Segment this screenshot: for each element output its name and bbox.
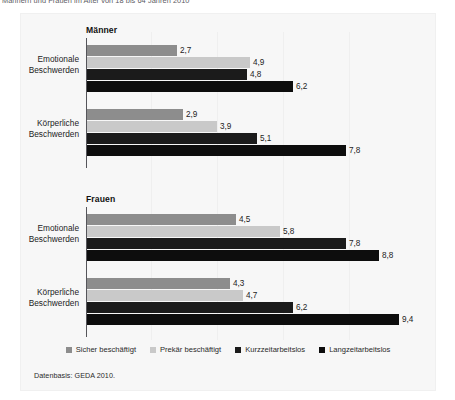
bar-maenner-koerperliche-prekaer <box>87 121 217 132</box>
legend-label-prekaer: Prekär beschäftigt <box>160 345 221 354</box>
group-label-frauen-emotionale: Emotionale Beschwerden <box>0 223 79 244</box>
group-label-frauen-koerperliche: Körperliche Beschwerden <box>0 287 79 308</box>
chart-legend: Sicher beschäftigt Prekär beschäftigt Ku… <box>21 345 435 354</box>
legend-label-langzeit: Langzeitarbeitslos <box>329 345 390 354</box>
legend-label-sicher: Sicher beschäftigt <box>76 345 136 354</box>
bar-frauen-koerperliche-langzeit <box>87 314 399 325</box>
group-label-maenner-koerperliche: Körperliche Beschwerden <box>0 118 79 139</box>
bar-value-frauen-emotionale-langzeit: 8,8 <box>382 250 393 261</box>
gridline <box>283 32 284 340</box>
group-label-line2: Beschwerden <box>0 234 79 245</box>
bar-value-maenner-koerperliche-langzeit: 7,8 <box>349 145 360 156</box>
bar-value-maenner-koerperliche-prekaer: 3,9 <box>220 121 231 132</box>
bar-value-maenner-emotionale-kurzzeit: 4,8 <box>250 69 261 80</box>
bar-value-frauen-emotionale-sicher: 4,5 <box>239 214 250 225</box>
bar-maenner-emotionale-kurzzeit <box>87 69 247 80</box>
bar-maenner-emotionale-langzeit <box>87 81 293 92</box>
bar-value-maenner-emotionale-langzeit: 6,2 <box>296 81 307 92</box>
legend-item-langzeitarbeitslos[interactable]: Langzeitarbeitslos <box>319 345 390 354</box>
bar-frauen-koerperliche-sicher <box>87 278 230 289</box>
bar-maenner-koerperliche-kurzzeit <box>87 133 257 144</box>
group-label-line2: Beschwerden <box>0 129 79 140</box>
bar-value-maenner-koerperliche-sicher: 2,9 <box>186 109 197 120</box>
legend-label-kurzzeit: Kurzzeitarbeitslos <box>245 345 305 354</box>
chart-panel: Männer Emotionale Beschwerden 2,7 4,9 4,… <box>21 14 435 390</box>
panel-heading-frauen: Frauen <box>86 194 115 204</box>
bar-value-frauen-koerperliche-prekaer: 4,7 <box>246 290 257 301</box>
group-label-line1: Körperliche <box>0 118 79 129</box>
group-label-line1: Emotionale <box>0 54 79 65</box>
bar-value-frauen-emotionale-prekaer: 5,8 <box>283 226 294 237</box>
legend-item-prekaer-beschaeftigt[interactable]: Prekär beschäftigt <box>150 345 221 354</box>
bar-value-frauen-koerperliche-langzeit: 9,4 <box>402 314 413 325</box>
bar-frauen-emotionale-kurzzeit <box>87 238 346 249</box>
legend-item-sicher-beschaeftigt[interactable]: Sicher beschäftigt <box>66 345 136 354</box>
bar-maenner-koerperliche-langzeit <box>87 145 346 156</box>
bar-frauen-emotionale-prekaer <box>87 226 280 237</box>
figure-caption-strip: Männern und Frauen im Alter von 18 bis 6… <box>0 0 455 7</box>
bar-maenner-emotionale-prekaer <box>87 57 250 68</box>
bar-value-frauen-emotionale-kurzzeit: 7,8 <box>349 238 360 249</box>
bar-frauen-emotionale-sicher <box>87 214 236 225</box>
bar-value-maenner-koerperliche-kurzzeit: 5,1 <box>260 133 271 144</box>
bar-value-maenner-emotionale-prekaer: 4,9 <box>253 57 264 68</box>
legend-swatch-langzeit-icon <box>319 347 325 353</box>
legend-item-kurzzeitarbeitslos[interactable]: Kurzzeitarbeitslos <box>235 345 305 354</box>
bar-value-maenner-emotionale-sicher: 2,7 <box>180 45 191 56</box>
legend-swatch-kurzzeit-icon <box>235 347 241 353</box>
panel-heading-maenner: Männer <box>86 25 117 35</box>
source-note: Datenbasis: GEDA 2010. <box>34 371 115 380</box>
group-label-line1: Emotionale <box>0 223 79 234</box>
bar-frauen-koerperliche-prekaer <box>87 290 243 301</box>
group-label-line2: Beschwerden <box>0 298 79 309</box>
bar-value-frauen-koerperliche-kurzzeit: 6,2 <box>296 302 307 313</box>
bar-maenner-koerperliche-sicher <box>87 109 183 120</box>
gridline <box>349 32 350 340</box>
legend-swatch-prekaer-icon <box>150 347 156 353</box>
bar-maenner-emotionale-sicher <box>87 45 177 56</box>
figure-caption: Männern und Frauen im Alter von 18 bis 6… <box>2 0 190 5</box>
group-label-maenner-emotionale: Emotionale Beschwerden <box>0 54 79 75</box>
group-label-line2: Beschwerden <box>0 65 79 76</box>
bar-frauen-emotionale-langzeit <box>87 250 379 261</box>
bar-frauen-koerperliche-kurzzeit <box>87 302 293 313</box>
group-label-line1: Körperliche <box>0 287 79 298</box>
bar-value-frauen-koerperliche-sicher: 4,3 <box>233 278 244 289</box>
legend-swatch-sicher-icon <box>66 347 72 353</box>
